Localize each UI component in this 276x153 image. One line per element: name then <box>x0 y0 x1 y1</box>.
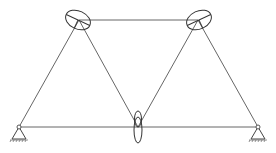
pin-icon <box>17 125 21 129</box>
pinned-support-left <box>10 125 28 142</box>
minor-axis-line <box>199 20 203 28</box>
pinned-support-right <box>249 125 267 142</box>
member-inner-left-diagonal <box>79 20 138 127</box>
member-right-diagonal <box>198 20 258 127</box>
truss-canvas <box>0 0 276 153</box>
member-inner-right-diagonal <box>138 20 198 127</box>
ground-hatch-icon <box>249 140 267 142</box>
ground-hatch-icon <box>10 140 28 142</box>
lower-ellipse <box>134 117 142 143</box>
member-left-diagonal <box>19 20 79 127</box>
pin-icon <box>256 125 260 129</box>
minor-axis-line <box>74 20 78 28</box>
truss-diagram <box>0 0 276 153</box>
